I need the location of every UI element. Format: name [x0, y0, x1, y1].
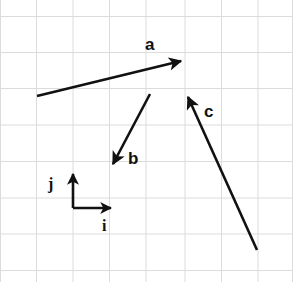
- basis-vector-i-label: i: [102, 217, 107, 234]
- vector-c-label: c: [204, 102, 213, 121]
- vector-b-label: b: [128, 149, 138, 168]
- vector-a-label: a: [145, 35, 155, 54]
- diagram-canvas: abc ij: [0, 0, 293, 282]
- basis-vector-j-label: j: [47, 175, 53, 193]
- vector-diagram-figure: abc ij: [0, 0, 293, 282]
